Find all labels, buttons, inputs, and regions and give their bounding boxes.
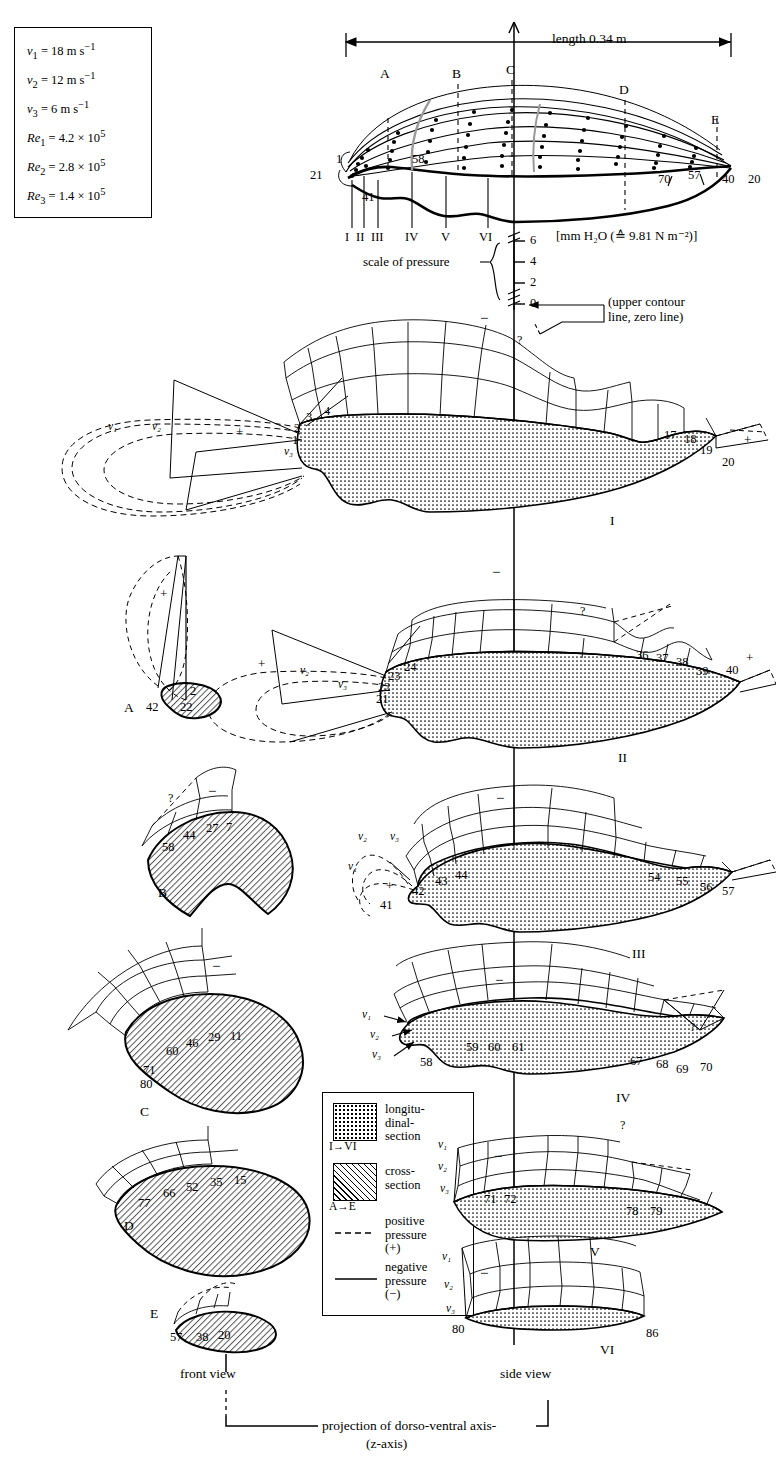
section-II-tap-38: 38	[676, 655, 689, 670]
section-II-v2: v₂	[300, 664, 309, 676]
cross-B-query-marker: ?	[168, 791, 173, 806]
cross-B-tap-44: 44	[183, 828, 196, 843]
section-name-I: I	[610, 513, 615, 529]
section-III	[352, 785, 776, 932]
section-IV-tap-59: 59	[466, 1040, 479, 1055]
cross-C-tap-11: 11	[230, 1029, 242, 1044]
section-IV-tap-68: 68	[656, 1057, 669, 1072]
axis-caption-line1: projection of dorso-ventral axis-	[322, 1418, 496, 1434]
overview-tap-1: 1	[336, 152, 342, 167]
length-dimension	[346, 33, 731, 57]
scale-tick-2: 2	[530, 275, 536, 290]
section-V-minus-marker: −	[494, 1148, 502, 1165]
section-III-v2: v₂	[358, 830, 367, 842]
section-name-IV: IV	[616, 1090, 630, 1106]
cross-section-C	[68, 928, 303, 1113]
overview-body	[339, 80, 731, 228]
overview-tap-40: 40	[722, 172, 735, 187]
section-IV-query-marker: ?	[690, 1020, 695, 1035]
section-VI-tap-80: 80	[452, 1322, 465, 1337]
section-I-tail-plus: +	[744, 432, 751, 448]
section-III-tap-42: 42	[412, 884, 425, 899]
section-II-tap-24: 24	[404, 660, 417, 675]
section-name-V: V	[590, 1244, 600, 1260]
figure-canvas	[0, 0, 776, 1461]
front-view-label: front view	[180, 1366, 236, 1382]
section-III-tap-44: 44	[455, 868, 468, 883]
cross-marker-C: C	[506, 62, 515, 78]
section-II-tap-23: 23	[388, 669, 401, 684]
section-name-III: III	[632, 946, 646, 962]
section-III-tap-55: 55	[676, 874, 689, 889]
longitudinal-marker-V: V	[441, 230, 450, 245]
cross-C-tap-80: 80	[140, 1077, 153, 1092]
longitudinal-marker-III: III	[371, 230, 384, 245]
section-II-tap-37: 37	[656, 651, 669, 666]
axis-caption-line2: (z-axis)	[366, 1436, 407, 1452]
scale-tick-0: 0	[530, 296, 536, 311]
longitudinal-marker-II: II	[356, 230, 364, 245]
section-I-v1: v₁	[108, 420, 117, 432]
section-III-plus-marker: +	[386, 878, 393, 894]
section-II-v3: v₃	[338, 678, 347, 690]
cross-A-tap-2: 2	[190, 684, 196, 699]
longitudinal-marker-IV: IV	[405, 230, 418, 245]
pressure-distribution-figure: v1 = 18 m s−1 v2 = 12 m s−1 v3 = 6 m s−1…	[0, 0, 776, 1461]
cross-marker-A: A	[380, 66, 390, 82]
cross-section-name-D: D	[124, 1218, 134, 1234]
cross-B-tap-58: 58	[162, 840, 175, 855]
cross-C-tap-60: 60	[166, 1044, 179, 1059]
cross-D-tap-15: 15	[234, 1173, 247, 1188]
section-IV	[384, 942, 724, 1074]
section-IV-tap-70: 70	[700, 1060, 713, 1075]
cross-C-tap-71: 71	[143, 1063, 156, 1078]
cross-E-tap-38: 38	[196, 1330, 209, 1345]
section-III-v1: v₁	[348, 860, 357, 872]
cross-section-name-B: B	[158, 885, 167, 901]
cross-D-tap-66: 66	[163, 1186, 176, 1201]
section-II-plus-marker: +	[258, 656, 265, 672]
section-III-tap-41: 41	[380, 898, 393, 913]
section-V-tap-78: 78	[626, 1204, 639, 1219]
scale-of-pressure-label: scale of pressure	[363, 254, 450, 270]
section-III-tap-43: 43	[435, 874, 448, 889]
pressure-scale	[480, 232, 604, 334]
cross-C-tap-29: 29	[208, 1030, 221, 1045]
section-VI-v1: v₁	[442, 1250, 451, 1262]
cross-C-minus-marker: −	[212, 958, 220, 975]
section-II-query-marker: ?	[580, 604, 585, 619]
section-V-tap-71: 71	[484, 1192, 497, 1207]
cross-marker-D: D	[619, 82, 629, 98]
section-IV-v1: v₁	[362, 1008, 371, 1020]
cross-D-minus-marker: −	[172, 1160, 180, 1177]
cross-D-tap-77: 77	[138, 1196, 151, 1211]
section-VI-tap-86: 86	[646, 1326, 659, 1341]
section-II-tap-39: 39	[696, 664, 709, 679]
section-I-v2: v₂	[152, 420, 161, 432]
section-VI-v2: v₂	[444, 1278, 453, 1290]
section-I-tap-4: 4	[324, 404, 330, 419]
section-III-minus-marker: −	[496, 790, 504, 807]
scale-tick-4: 4	[530, 254, 536, 269]
section-V-v2: v₂	[438, 1160, 447, 1172]
section-II-tail-plus: +	[746, 650, 753, 666]
section-II-tap-36: 36	[636, 648, 649, 663]
cross-section-name-C: C	[140, 1104, 149, 1120]
section-III-v3: v₃	[390, 830, 399, 842]
bottom-caption-connectors	[226, 1354, 548, 1426]
section-IV-tap-60: 60	[488, 1040, 501, 1055]
overview-tap-70: 70	[658, 172, 671, 187]
cross-A-plus-marker: +	[160, 586, 167, 602]
pressure-unit-label: [mm H₂O (≙ 9.81 N m⁻²)]	[556, 228, 697, 244]
section-III-tap-56: 56	[700, 880, 713, 895]
section-II	[126, 556, 776, 748]
section-I-tap-2: 2	[294, 421, 300, 436]
cross-A-tap-22: 22	[180, 700, 193, 715]
cross-E-tap-57: 57	[170, 1330, 183, 1345]
section-VI-minus-marker: −	[480, 1265, 488, 1282]
cross-E-tap-20: 20	[218, 1328, 231, 1343]
section-I-tap-19: 19	[700, 443, 713, 458]
section-I-tap-3: 3	[306, 410, 312, 425]
cross-marker-B: B	[452, 66, 461, 82]
section-VI	[462, 1236, 644, 1330]
